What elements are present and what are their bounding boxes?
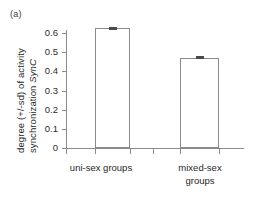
x-axis-category-1-line-1: groups [160, 174, 240, 187]
x-axis-category-1-line-0: mixed-sex [160, 161, 240, 174]
y-axis-title-italic-symbol: SynC [27, 59, 38, 83]
y-tick-label-6: 0.6 [16, 28, 58, 38]
bar-1 [180, 58, 219, 148]
y-axis-line [66, 30, 67, 149]
y-axis-title-line-1: degree (+/-sd) of activity [15, 48, 26, 153]
x-axis-category-label-1: mixed-sexgroups [160, 161, 240, 187]
x-axis-line [66, 148, 244, 149]
figure-panel-a: (a) 00.10.20.30.40.50.6 degree (+/-sd) o… [0, 0, 257, 201]
error-bar-1 [196, 56, 204, 59]
error-bar-0 [109, 27, 117, 30]
y-tick-mark-1 [62, 129, 67, 130]
y-axis-title-line-2-text: synchronization [27, 83, 38, 153]
bar-0 [95, 28, 130, 148]
y-axis-title-line-2: synchronization SynC [27, 59, 38, 153]
y-tick-mark-5 [62, 52, 67, 53]
x-tick-mark-3 [153, 149, 154, 154]
x-axis-category-0-line-0: uni-sex groups [62, 161, 140, 174]
bar-chart-plot-area: 00.10.20.30.40.50.6 degree (+/-sd) of ac… [0, 0, 257, 201]
x-axis-category-label-0: uni-sex groups [62, 161, 140, 174]
x-tick-mark-1 [95, 149, 96, 154]
y-tick-mark-4 [62, 71, 67, 72]
y-tick-mark-6 [62, 33, 67, 34]
x-tick-mark-0 [66, 149, 67, 154]
x-tick-mark-5 [219, 149, 220, 154]
y-tick-mark-2 [62, 110, 67, 111]
y-tick-mark-3 [62, 91, 67, 92]
x-tick-mark-2 [130, 149, 131, 154]
x-tick-mark-4 [180, 149, 181, 154]
